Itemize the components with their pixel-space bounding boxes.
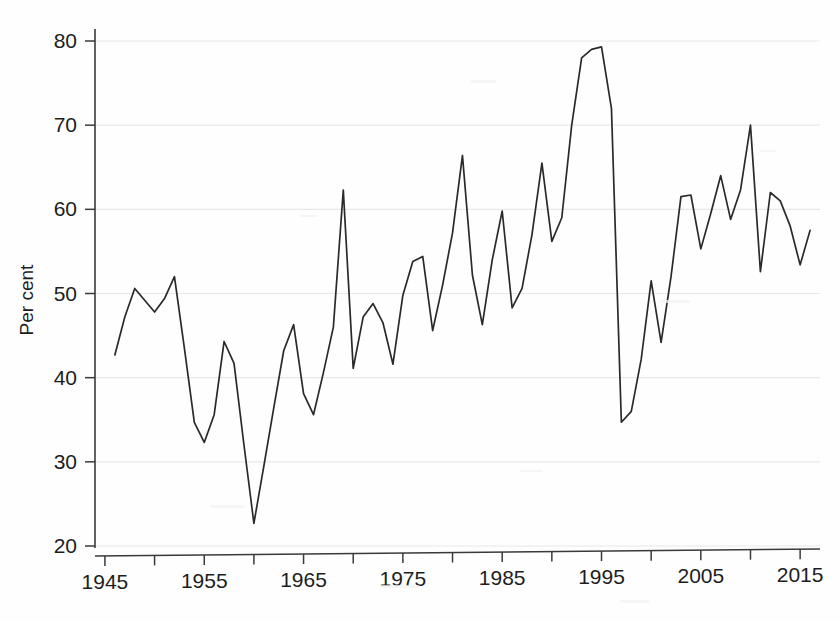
y-tick-label-50: 50 xyxy=(54,282,77,305)
paper-speck-1 xyxy=(300,215,318,217)
paper-speck-5 xyxy=(760,150,776,152)
y-tick-label-30: 30 xyxy=(54,450,77,473)
line-chart-canvas: 20304050607080 1945195519651975198519952… xyxy=(0,0,840,622)
paper-speck-3 xyxy=(210,505,244,508)
x-tick-label-1965: 1965 xyxy=(280,568,327,591)
x-tick-label-2015: 2015 xyxy=(777,563,824,586)
x-tick-label-2005: 2005 xyxy=(677,564,724,587)
paper-speck-6 xyxy=(380,585,420,588)
y-tick-label-40: 40 xyxy=(54,366,77,389)
y-tick-label-60: 60 xyxy=(54,197,77,220)
x-tick-label-1995: 1995 xyxy=(578,565,625,588)
chart-figure: 20304050607080 1945195519651975198519952… xyxy=(0,0,840,622)
paper-speck-2 xyxy=(660,300,690,303)
paper-speck-7 xyxy=(620,600,650,603)
y-tick-label-70: 70 xyxy=(54,113,77,136)
y-axis-title: Per cent xyxy=(16,264,37,335)
paper-speck-0 xyxy=(470,80,496,83)
x-tick-label-1985: 1985 xyxy=(479,566,526,589)
y-tick-label-20: 20 xyxy=(54,534,77,557)
x-tick-label-1945: 1945 xyxy=(82,570,129,593)
paper-speck-4 xyxy=(520,470,542,472)
y-tick-label-80: 80 xyxy=(54,29,77,52)
x-tick-label-1955: 1955 xyxy=(181,569,228,592)
